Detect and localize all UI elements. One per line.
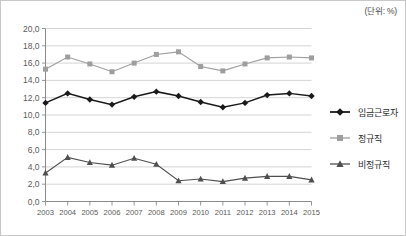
square-marker — [65, 55, 70, 60]
diamond-marker — [197, 99, 203, 105]
x-axis-tick-label: 2004 — [59, 208, 76, 217]
diamond-marker — [109, 101, 115, 107]
y-axis-tick-label: 16,0 — [23, 58, 40, 68]
diamond-marker — [87, 96, 93, 102]
diamond-marker — [153, 88, 159, 94]
diamond-marker — [64, 90, 70, 96]
diamond-marker — [42, 100, 48, 106]
square-marker — [220, 68, 225, 73]
y-axis-tick-label: 10,0 — [23, 110, 40, 120]
x-axis-tick-label: 2011 — [215, 208, 231, 217]
x-axis-tick-label: 2008 — [148, 208, 165, 217]
diamond-marker — [131, 94, 137, 100]
x-axis-tick-label: 2003 — [37, 208, 54, 217]
legend-item-label: 비정규직 — [358, 160, 390, 170]
square-marker — [265, 55, 270, 60]
triangle-marker — [131, 155, 137, 161]
diamond-marker — [286, 90, 292, 96]
square-marker — [287, 55, 292, 60]
line-chart: 0,02,04,06,08,010,012,014,016,018,020,02… — [1, 1, 406, 236]
y-axis-tick-label: 14,0 — [23, 75, 40, 85]
square-marker — [43, 67, 48, 72]
diamond-marker — [336, 108, 344, 116]
y-axis-tick-label: 18,0 — [23, 41, 40, 51]
diamond-marker — [308, 93, 314, 99]
y-axis-tick-label: 2,0 — [28, 179, 40, 189]
square-marker — [243, 61, 248, 66]
square-marker — [154, 52, 159, 57]
square-marker — [176, 49, 181, 54]
x-axis-tick-label: 2014 — [281, 208, 298, 217]
legend-item-label: 정규직 — [358, 134, 382, 144]
x-axis-tick-label: 2015 — [303, 208, 320, 217]
square-marker — [132, 61, 137, 66]
triangle-marker — [198, 176, 204, 182]
y-axis-tick-label: 0,0 — [28, 197, 40, 207]
x-axis-tick-label: 2009 — [170, 208, 187, 217]
plot-area: 0,02,04,06,08,010,012,014,016,018,020,02… — [1, 1, 406, 236]
y-axis-tick-label: 12,0 — [23, 93, 40, 103]
y-axis-tick-label: 20,0 — [23, 24, 40, 34]
x-axis-tick-label: 2005 — [81, 208, 98, 217]
diamond-marker — [220, 104, 226, 110]
square-marker — [198, 64, 203, 69]
legend-item-label: 임금근로자 — [358, 107, 399, 118]
square-marker — [309, 55, 314, 60]
diamond-marker — [242, 100, 248, 106]
x-axis-tick-label: 2007 — [126, 208, 143, 217]
triangle-marker — [42, 170, 48, 176]
x-axis-tick-label: 2013 — [259, 208, 276, 217]
y-axis-tick-label: 8,0 — [28, 127, 40, 137]
y-axis-tick-label: 4,0 — [28, 162, 40, 172]
y-axis-tick-label: 6,0 — [28, 145, 40, 155]
square-marker — [337, 135, 343, 141]
diamond-marker — [175, 93, 181, 99]
triangle-marker — [65, 154, 71, 160]
x-axis-tick-label: 2012 — [237, 208, 254, 217]
square-marker — [110, 69, 115, 74]
square-marker — [87, 61, 92, 66]
x-axis-tick-label: 2006 — [104, 208, 121, 217]
series-line — [46, 52, 312, 72]
x-axis-tick-label: 2010 — [192, 208, 209, 217]
chart-figure: (단위: %) 0,02,04,06,08,010,012,014,016,01… — [0, 0, 406, 236]
